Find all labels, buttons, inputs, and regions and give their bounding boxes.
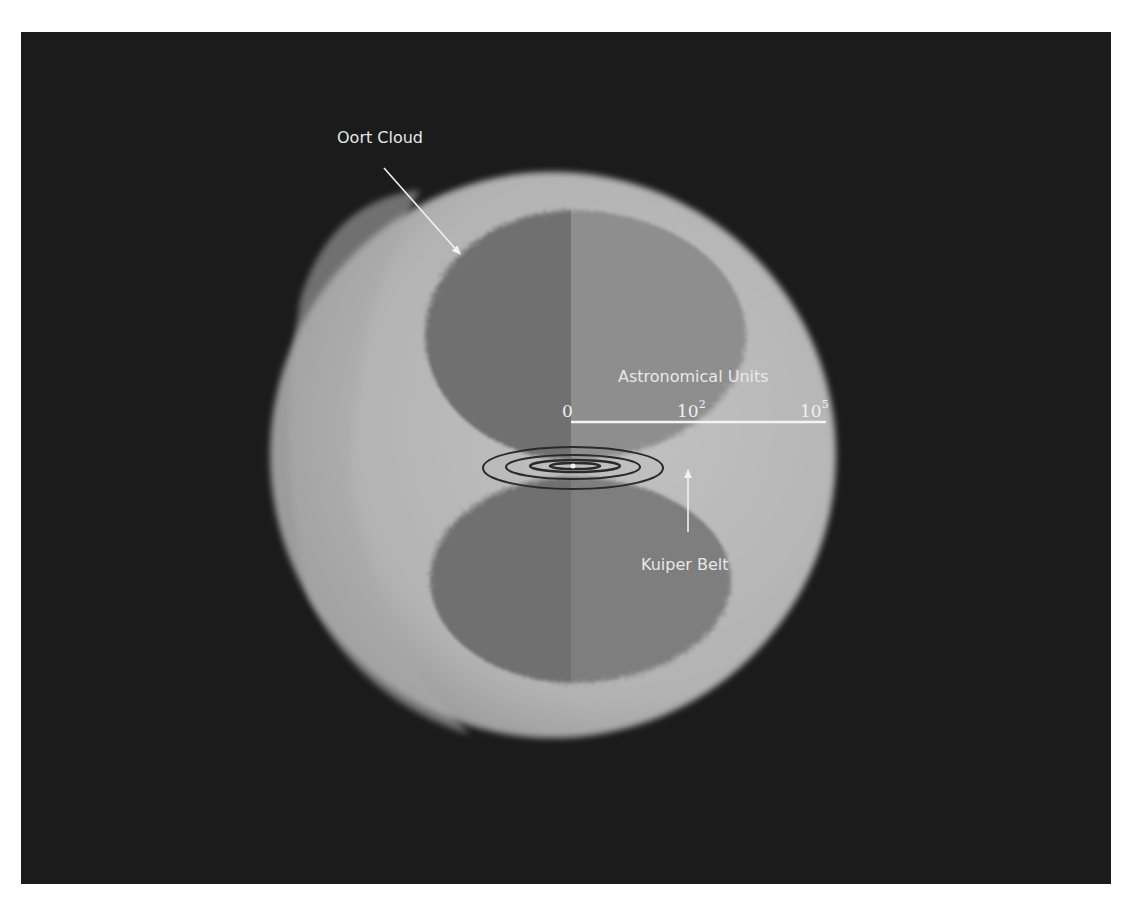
scale-tick-10e2: 102 — [677, 401, 706, 421]
axis-title-label: Astronomical Units — [618, 367, 769, 386]
scale-tick-10e5: 105 — [800, 401, 829, 421]
oort-cloud-diagram — [0, 0, 1137, 901]
scale-tick-0: 0 — [562, 401, 573, 421]
oort-cloud-label: Oort Cloud — [337, 128, 423, 147]
kuiper-belt-label: Kuiper Belt — [641, 555, 728, 574]
sun-icon — [571, 464, 576, 469]
